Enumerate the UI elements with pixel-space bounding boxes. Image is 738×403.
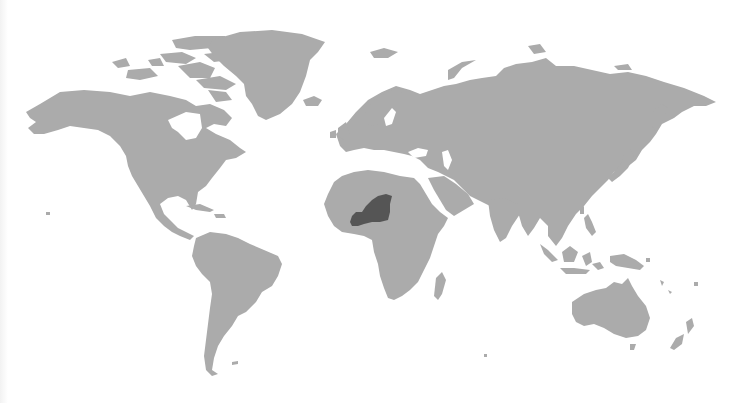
land-caribbean bbox=[186, 204, 226, 218]
land-speck bbox=[484, 354, 487, 357]
land-tasmania bbox=[630, 344, 636, 350]
land-hawaii bbox=[46, 212, 50, 215]
land-madagascar bbox=[434, 272, 446, 300]
land-africa bbox=[324, 170, 448, 300]
land-pacific-islands bbox=[646, 258, 698, 294]
land-iceland bbox=[303, 96, 322, 106]
land-north-america bbox=[26, 90, 246, 240]
land-australia bbox=[572, 278, 650, 338]
land-indonesia bbox=[540, 244, 604, 274]
land-new-guinea bbox=[610, 254, 644, 270]
land-india bbox=[488, 198, 520, 242]
land-south-america bbox=[192, 232, 282, 376]
land-falklands bbox=[232, 361, 238, 365]
map-canvas bbox=[0, 0, 738, 403]
world-map: World map with Niger highlighted bbox=[0, 0, 738, 403]
land-new-zealand bbox=[670, 318, 694, 350]
land-philippines bbox=[584, 214, 596, 236]
land-greenland bbox=[208, 30, 325, 120]
